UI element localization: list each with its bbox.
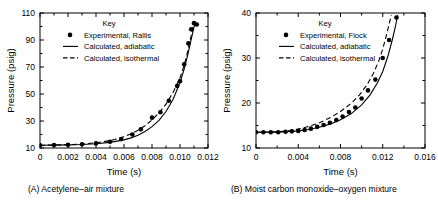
data-point <box>175 84 180 89</box>
plot-a: 00.0020.0040.0060.0080.0100.012103050709… <box>0 0 219 206</box>
x-tick-label: 0.006 <box>113 152 135 162</box>
data-point <box>108 139 113 144</box>
data-point <box>186 41 191 46</box>
data-point <box>150 115 155 120</box>
data-point <box>167 98 172 103</box>
data-point <box>387 38 392 43</box>
chart-panel-b: 00.0040.0080.0120.01610203040Time (s)Pre… <box>219 0 438 206</box>
y-axis-title: Pressure (psig) <box>5 48 16 112</box>
data-point <box>38 143 43 148</box>
legend-label: Calculated, isothermal <box>84 54 159 63</box>
data-point <box>268 130 273 135</box>
legend-label: Calculated, adiabatic <box>84 42 155 51</box>
x-axis-title: Time (s) <box>107 166 141 177</box>
plot-b: 00.0040.0080.0120.01610203040Time (s)Pre… <box>219 0 438 206</box>
y-tick-label: 20 <box>242 98 252 108</box>
data-point <box>80 142 85 147</box>
x-tick-label: 0.002 <box>57 152 79 162</box>
data-point <box>328 121 333 126</box>
series-experimental-points <box>38 21 199 148</box>
legend-label: Calculated, adiabatic <box>300 42 371 51</box>
legend-label: Calculated, isothermal <box>300 54 375 63</box>
data-point <box>158 110 163 115</box>
x-tick-label: 0 <box>38 152 43 162</box>
data-point <box>340 114 345 119</box>
chart-panel-a: 00.0020.0040.0060.0080.0100.012103050709… <box>0 0 219 206</box>
y-tick-label: 50 <box>26 89 36 99</box>
data-point <box>119 137 124 142</box>
legend-label: Experimental, Rallis <box>84 31 151 40</box>
legend: KeyExperimental, FiockCalculated, adiaba… <box>279 19 375 63</box>
data-point <box>347 110 352 115</box>
data-point <box>321 123 326 128</box>
data-point <box>139 127 144 132</box>
figure-container: 00.0020.0040.0060.0080.0100.012103050709… <box>0 0 438 206</box>
data-point <box>302 128 307 133</box>
data-point <box>359 96 364 101</box>
data-point <box>394 15 399 20</box>
y-tick-label: 10 <box>26 143 36 153</box>
x-tick-label: 0.004 <box>288 152 310 162</box>
data-point <box>195 22 200 27</box>
y-tick-label: 30 <box>26 116 36 126</box>
data-point <box>178 79 183 84</box>
y-axis-title: Pressure (psig) <box>221 48 232 112</box>
y-tick-label: 70 <box>26 62 36 72</box>
data-layer <box>38 21 199 148</box>
legend-marker-point <box>68 33 73 38</box>
series-isothermal-curve <box>40 22 194 145</box>
legend-title: Key <box>318 19 331 28</box>
data-point <box>309 126 314 131</box>
y-tick-label: 110 <box>21 8 35 18</box>
data-point <box>130 132 135 137</box>
series-adiabatic-curve <box>40 22 195 146</box>
x-tick-label: 0.004 <box>85 152 107 162</box>
legend-marker-point <box>284 33 289 38</box>
data-point <box>380 56 385 61</box>
y-tick-label: 90 <box>26 35 36 45</box>
data-point <box>52 143 57 148</box>
data-point <box>254 130 259 135</box>
legend-label: Experimental, Fiock <box>300 31 367 40</box>
x-tick-label: 0.010 <box>169 152 191 162</box>
data-point <box>189 27 194 32</box>
data-point <box>276 130 281 135</box>
data-point <box>353 105 358 110</box>
y-tick-label: 10 <box>242 143 252 153</box>
x-tick-label: 0.008 <box>330 152 352 162</box>
y-tick-label: 40 <box>242 8 252 18</box>
data-point <box>290 129 295 134</box>
data-point <box>366 88 371 93</box>
data-point <box>66 142 71 147</box>
x-tick-label: 0.012 <box>372 152 394 162</box>
x-tick-label: 0 <box>254 152 259 162</box>
x-tick-label: 0.012 <box>197 152 219 162</box>
legend: KeyExperimental, RallisCalculated, adiab… <box>63 19 159 63</box>
data-point <box>182 62 187 67</box>
y-tick-label: 30 <box>242 53 252 63</box>
data-point <box>261 130 266 135</box>
data-point <box>315 125 320 130</box>
data-point <box>334 118 339 123</box>
x-tick-label: 0.008 <box>141 152 163 162</box>
panel-caption: (B) Moist carbon monoxide–oxygen mixture <box>231 184 397 194</box>
data-point <box>94 141 99 146</box>
x-axis-title: Time (s) <box>323 166 357 177</box>
legend-title: Key <box>102 19 115 28</box>
x-tick-label: 0.016 <box>414 152 436 162</box>
data-point <box>373 77 378 82</box>
data-point <box>296 129 301 134</box>
data-point <box>283 130 288 135</box>
panel-caption: (A) Acetylene–air mixture <box>28 184 124 194</box>
